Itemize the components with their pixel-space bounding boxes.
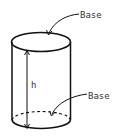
height-label: h bbox=[31, 80, 36, 90]
bottom-base-label: Base bbox=[88, 91, 110, 101]
cylinder-diagram: h Base Base bbox=[0, 0, 123, 140]
bottom-base-front bbox=[12, 120, 71, 128]
top-base-ellipse bbox=[12, 33, 71, 52]
top-base-label: Base bbox=[80, 10, 102, 20]
top-base-pointer bbox=[49, 14, 79, 33]
bottom-base-back bbox=[12, 112, 71, 120]
bottom-base-pointer bbox=[52, 94, 87, 114]
